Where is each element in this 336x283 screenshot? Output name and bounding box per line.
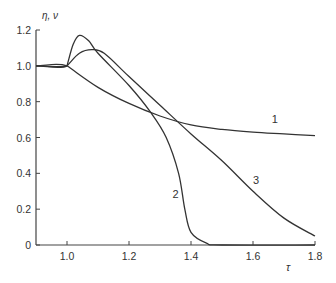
x-tick-label: 1.8 (308, 250, 323, 262)
x-axis-label: τ (286, 261, 291, 273)
curve-label-1: 1 (272, 113, 278, 125)
y-axis-label: η, ν (42, 10, 58, 21)
x-tick-label: 1.4 (184, 250, 199, 262)
x-tick-label: 1.6 (246, 250, 261, 262)
y-tick-label: 0.8 (16, 96, 31, 108)
y-tick-label: 0 (25, 239, 31, 251)
curve-2 (36, 35, 315, 245)
x-tick-label: 1.2 (122, 250, 137, 262)
axes: 1.01.21.41.61.800.20.40.60.81.01.2η, ντ (16, 10, 322, 273)
curve-label-2: 2 (172, 188, 178, 200)
line-chart: 1.01.21.41.61.800.20.40.60.81.01.2η, ντ … (0, 0, 336, 283)
y-tick-label: 1.2 (16, 24, 31, 36)
curve-label-3: 3 (253, 174, 259, 186)
x-tick-label: 1.0 (60, 250, 75, 262)
y-tick-label: 0.4 (16, 167, 31, 179)
curves (36, 35, 315, 245)
curve-labels: 123 (172, 113, 277, 200)
y-tick-label: 0.6 (16, 132, 31, 144)
y-tick-label: 0.2 (16, 203, 31, 215)
curve-3 (36, 50, 315, 236)
y-tick-label: 1.0 (16, 60, 31, 72)
